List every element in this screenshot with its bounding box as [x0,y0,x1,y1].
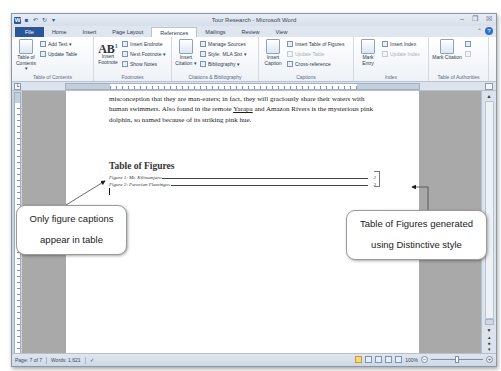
style-dropdown[interactable]: Style:MLA Sixt ▾ [200,50,247,58]
proofing-icon[interactable]: ✓ [90,357,94,363]
tab-home[interactable]: Home [44,27,75,37]
word-icon[interactable]: W [14,17,21,24]
tab-references[interactable]: References [151,27,197,37]
insert-toa-icon [465,41,471,47]
tab-view[interactable]: View [268,27,296,37]
group-captions: Insert Caption Insert Table of Figures U… [259,37,354,81]
group-label: Citations & Bibliography [172,74,258,80]
tab-insert[interactable]: Insert [75,27,105,37]
insert-endnote-button[interactable]: Insert Endnote [122,40,166,48]
footnote-icon: AB1 [98,39,118,54]
customize-qat-icon[interactable]: ▾ [50,17,57,24]
group-label: Table of Contents [12,74,93,80]
save-icon[interactable]: ■ [23,17,30,24]
scrollbar-track[interactable] [485,101,494,319]
update-table-of-authorities-button[interactable] [465,50,471,58]
insert-table-of-figures-button[interactable]: Insert Table of Figures [287,40,344,48]
bibliography-icon [200,61,206,67]
insert-table-of-authorities-button[interactable] [465,40,471,48]
close-button[interactable]: ☒ [486,15,492,23]
full-screen-reading-view-icon[interactable] [365,356,372,363]
group-table-of-contents: Table of Contents ▾ Add Text ▾ Update Ta… [12,37,94,81]
show-notes-button[interactable]: Show Notes [122,60,166,68]
table-of-figures: Figure 1: Mt. Kilimanjaro 2 Figure 2: Pe… [109,173,376,187]
horizontal-ruler[interactable] [65,83,420,90]
group-table-of-authorities: Mark Citation Table of Authorities [429,37,489,81]
callout-distinctive-style: Table of Figures generated using Distinc… [346,210,487,260]
tab-review[interactable]: Review [234,27,268,37]
add-text-button[interactable]: Add Text ▾ [40,40,77,48]
zoom-slider-knob[interactable] [455,356,459,363]
word-count[interactable]: Words: 1,621 [51,357,81,363]
update-table-icon [40,51,46,57]
zoom-level[interactable]: 100% [405,357,418,363]
status-bar: Page: 7 of 7 Words: 1,621 ✓ 100% – + [12,353,496,366]
zoom-in-button[interactable]: + [486,356,493,363]
body-paragraph: misconception that they are man-eaters; … [109,94,409,125]
style-icon [200,51,206,57]
group-label: Index [354,74,428,80]
table-of-contents-icon [19,39,33,54]
tof-entry[interactable]: Figure 1: Mt. Kilimanjaro 2 [109,173,376,180]
quick-access-toolbar: W ■ ↶ ↻ ▾ [12,17,57,24]
cross-reference-button[interactable]: Cross-reference [287,60,344,68]
redo-icon[interactable]: ↻ [41,17,48,24]
web-layout-view-icon[interactable] [375,356,382,363]
mark-citation-icon [440,39,454,54]
next-footnote-icon [122,51,128,57]
insert-caption-icon [266,39,280,54]
add-text-icon [40,41,46,47]
next-footnote-button[interactable]: Next Footnote ▾ [122,50,166,58]
text-cursor [109,188,110,195]
page-number-bracket [374,171,380,187]
help-icon[interactable]: ? [485,27,493,35]
print-layout-view-icon[interactable] [355,356,362,363]
dot-leader [162,178,368,179]
mark-entry-icon [361,39,375,54]
ribbon: Table of Contents ▾ Add Text ▾ Update Ta… [12,37,496,82]
dot-leader [171,185,368,186]
update-table-button[interactable]: Update Table [40,50,77,58]
manage-sources-button[interactable]: Manage Sources [200,40,247,48]
window-title: Tour Research - Microsoft Word [12,17,496,23]
update-toa-icon [465,51,471,57]
tab-selector-button[interactable]: └ [14,83,21,90]
view-ruler-button[interactable] [485,83,493,90]
page-count[interactable]: Page: 7 of 7 [15,357,42,363]
draft-view-icon[interactable] [395,356,402,363]
scrollbar-thumb[interactable] [485,319,494,325]
word-window: W ■ ↶ ↻ ▾ Tour Research - Microsoft Word… [11,13,497,367]
insert-index-icon [382,41,388,47]
restore-button[interactable]: ❐ [472,15,478,23]
cross-reference-icon [287,61,293,67]
undo-icon[interactable]: ↶ [32,17,39,24]
ribbon-tabs: File Home Insert Page Layout References … [12,26,496,37]
tab-mailings[interactable]: Mailings [197,27,233,37]
minimize-ribbon-icon[interactable]: ⌃ [477,27,482,35]
next-page-icon[interactable]: ▾ [485,346,493,353]
zoom-out-button[interactable]: – [421,356,428,363]
update-table-of-figures-button[interactable]: Update Table [287,50,344,58]
tab-page-layout[interactable]: Page Layout [104,27,151,37]
group-footnotes: AB1 Insert Footnote Insert Endnote Next … [94,37,172,81]
endnote-icon [122,41,128,47]
group-index: Mark Entry Insert Index Update Index Ind… [354,37,429,81]
bibliography-button[interactable]: Bibliography ▾ [200,60,247,68]
callout-figure-captions: Only figure captions appear in table [16,205,127,255]
manage-sources-icon [200,41,206,47]
minimize-button[interactable]: – [460,15,464,23]
horizontal-ruler-row: └ [12,82,496,91]
group-label: Captions [259,74,353,80]
update-table-icon [287,51,293,57]
insert-index-button[interactable]: Insert Index [382,40,420,48]
zoom-slider[interactable] [431,356,483,363]
update-index-icon [382,51,388,57]
title-bar: W ■ ↶ ↻ ▾ Tour Research - Microsoft Word… [12,14,496,26]
tab-file[interactable]: File [15,27,44,37]
tof-entry[interactable]: Figure 2: Peruvian Flamingos 3 [109,180,376,187]
table-of-figures-heading: Table of Figures [109,161,174,171]
update-index-button[interactable]: Update Index [382,50,420,58]
outline-view-icon[interactable] [385,356,392,363]
scroll-up-icon[interactable]: ▲ [485,93,493,100]
scroll-down-icon[interactable]: ▼ [485,327,493,334]
